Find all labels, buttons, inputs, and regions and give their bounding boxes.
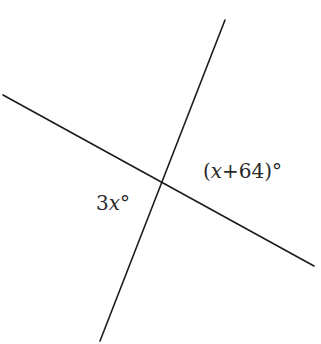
angle-label-3x: 3x°	[96, 191, 130, 215]
angle-label-x-plus-64: (x+64)°	[203, 159, 282, 183]
intersecting-lines-diagram: (x+64)° 3x°	[0, 0, 321, 344]
